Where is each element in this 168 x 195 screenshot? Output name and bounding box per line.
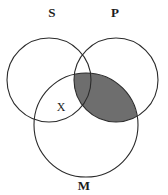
existential-x-marker: X xyxy=(57,100,66,114)
circle-label-s: S xyxy=(48,5,56,20)
circle-label-p: P xyxy=(111,5,119,20)
venn-diagram: S P M X xyxy=(0,0,168,195)
circle-label-m: M xyxy=(78,178,91,193)
venn-canvas: S P M X xyxy=(0,0,168,195)
